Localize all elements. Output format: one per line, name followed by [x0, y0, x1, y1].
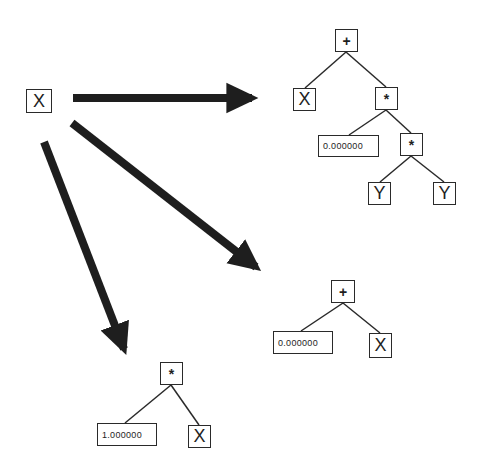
tree-3-edges: [125, 385, 199, 425]
tree-1-constant-node: 0.000000: [318, 135, 379, 157]
tree-3-x-node: X: [188, 425, 211, 448]
tree-3-root-multiply-node: *: [160, 362, 183, 385]
diagram-canvas: [0, 0, 479, 471]
tree-2-edges: [301, 303, 380, 333]
tree-1-y-right-node: Y: [433, 182, 456, 205]
tree-2-x-node: X: [369, 333, 392, 358]
tree-1-x-node: X: [293, 88, 316, 111]
tree-1-y-left-node: Y: [368, 182, 391, 205]
tree-1-multiply-node: *: [375, 87, 398, 110]
tree-1-inner-multiply-node: *: [400, 133, 423, 156]
tree-1-edges: [305, 52, 444, 182]
arrow-to-tree-2: [72, 123, 256, 267]
arrow-to-tree-3: [44, 142, 124, 349]
tree-2-constant-node: 0.000000: [273, 331, 333, 354]
tree-2-root-plus-node: +: [331, 280, 355, 303]
tree-3-constant-node: 1.000000: [97, 423, 157, 446]
source-node-x: X: [26, 89, 52, 113]
tree-1-root-plus-node: +: [335, 29, 358, 52]
